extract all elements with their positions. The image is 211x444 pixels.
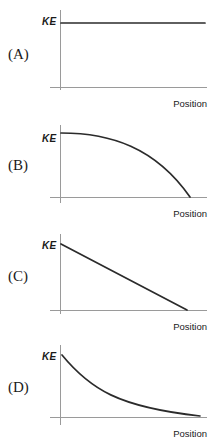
panel-c-x-axis-label: Position bbox=[173, 321, 207, 332]
panel-b-curve bbox=[61, 133, 190, 197]
panel-c: (C) KE Position bbox=[0, 222, 211, 333]
panel-d-curve bbox=[62, 355, 200, 416]
kinetic-energy-position-figure: (A) KE Position (B) KE Position (C) KE P… bbox=[0, 0, 211, 444]
panel-b-x-axis-label: Position bbox=[173, 208, 207, 219]
panel-d-x-axis-label: Position bbox=[173, 428, 207, 439]
panel-b-plot bbox=[0, 111, 211, 222]
panel-a: (A) KE Position bbox=[0, 0, 211, 111]
panel-a-x-axis-label: Position bbox=[173, 98, 207, 109]
panel-c-plot bbox=[0, 222, 211, 333]
panel-c-curve bbox=[61, 244, 187, 310]
panel-a-plot bbox=[0, 0, 211, 111]
panel-b: (B) KE Position bbox=[0, 111, 211, 222]
panel-d: (D) KE Position bbox=[0, 333, 211, 444]
